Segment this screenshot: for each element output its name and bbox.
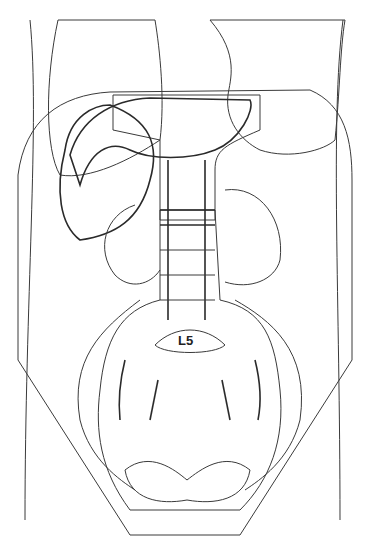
vertebra-label-l5: L5 — [178, 333, 193, 348]
lungs-region — [48, 20, 345, 176]
anatomical-diagram: L5 — [0, 0, 373, 560]
spleen — [60, 105, 154, 240]
spine — [160, 160, 215, 320]
diagram-svg: L5 — [0, 0, 373, 560]
kidneys — [105, 190, 281, 285]
para-aortic-field — [98, 95, 281, 510]
